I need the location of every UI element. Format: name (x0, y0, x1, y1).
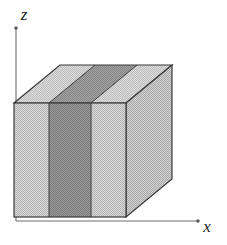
x-axis-label: x (202, 217, 211, 236)
front-face-group (14, 103, 126, 217)
front-face-center-dark-layer (49, 103, 91, 217)
z-axis-label: z (20, 5, 28, 24)
figure-container: z x (0, 0, 227, 245)
front-face-right-light-layer (91, 103, 126, 217)
front-face-left-light-layer (14, 103, 49, 217)
slab-diagram: z x (0, 0, 227, 245)
